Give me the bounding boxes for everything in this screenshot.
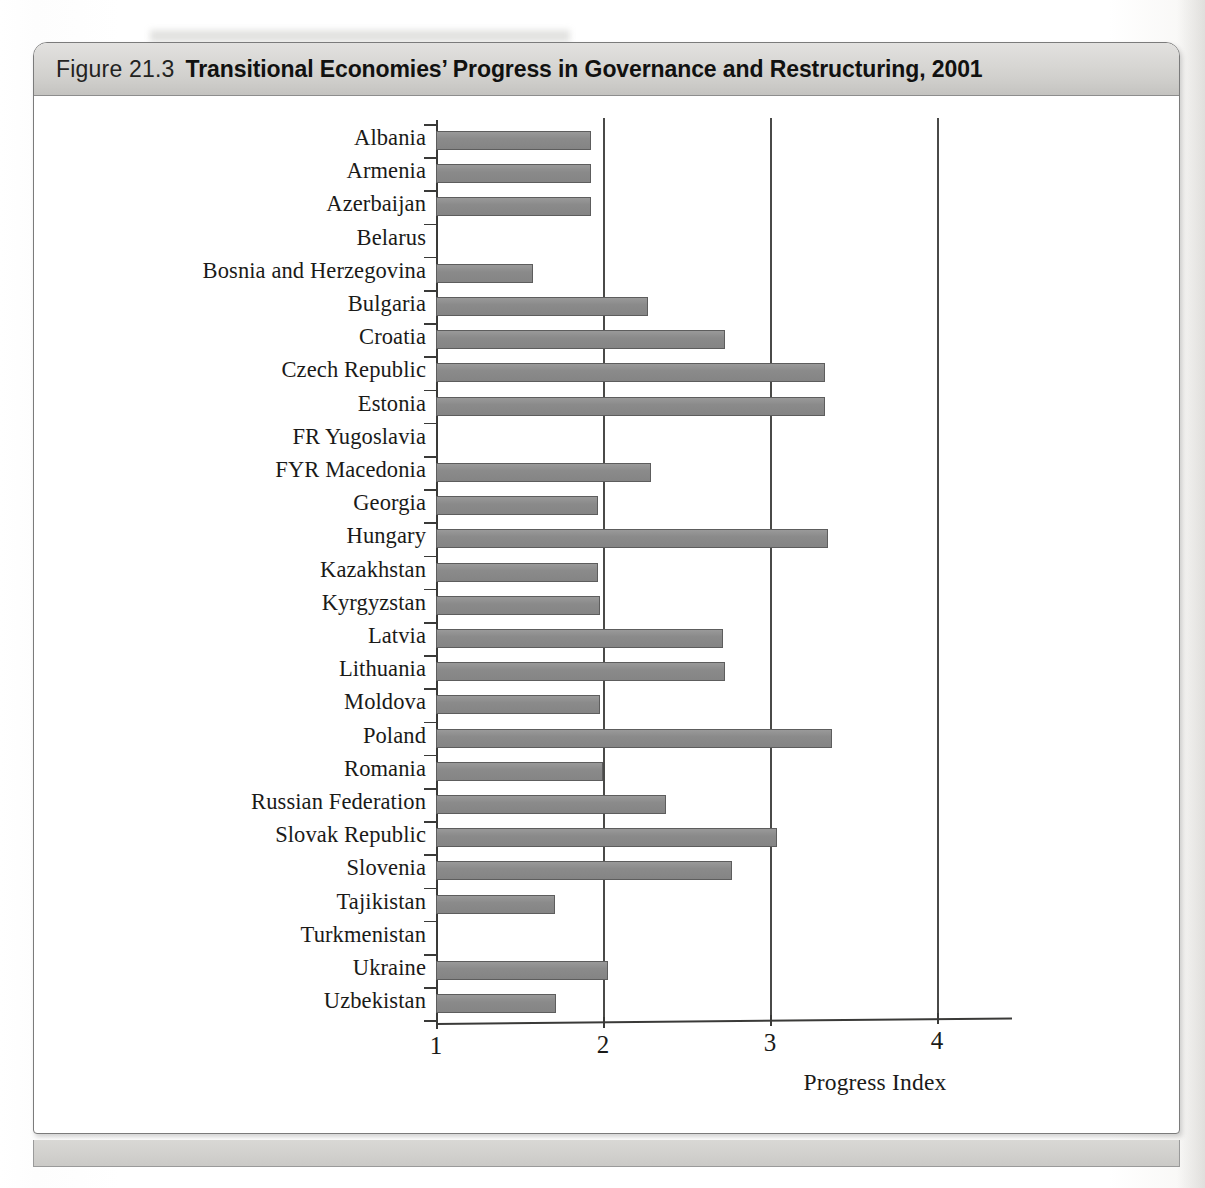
y-axis-tick xyxy=(424,124,437,126)
bar-bosnia-and-herzegovina xyxy=(436,264,533,283)
bar-czech-republic xyxy=(436,363,825,382)
figure-footer-band xyxy=(33,1140,1180,1167)
category-label: Belarus xyxy=(33,225,426,251)
y-axis-tick xyxy=(424,157,437,159)
figure-title: Transitional Economies’ Progress in Gove… xyxy=(186,56,983,83)
y-axis-tick xyxy=(424,655,437,657)
y-axis-tick xyxy=(424,854,437,856)
category-label: Estonia xyxy=(33,391,426,417)
category-label: Czech Republic xyxy=(33,357,426,383)
bar-fill xyxy=(437,630,722,647)
y-axis-tick xyxy=(424,290,437,292)
page-edge-shadow xyxy=(1177,0,1205,1188)
category-label: Ukraine xyxy=(33,955,426,981)
category-label: Slovenia xyxy=(33,855,426,881)
bar-fill xyxy=(437,564,597,581)
y-axis-tick xyxy=(424,522,437,524)
bar-fill xyxy=(437,862,731,879)
y-axis-tick xyxy=(424,788,437,790)
bar-fill xyxy=(437,464,650,481)
x-axis-tick-label: 2 xyxy=(583,1031,623,1059)
bar-poland xyxy=(436,729,832,748)
bar-hungary xyxy=(436,529,828,548)
y-axis-tick xyxy=(424,688,437,690)
bar-ukraine xyxy=(436,961,608,980)
bar-fill xyxy=(437,298,647,315)
category-label: Armenia xyxy=(33,158,426,184)
plot-area: AlbaniaArmeniaAzerbaijanBelarusBosnia an… xyxy=(34,96,1179,1133)
bar-slovak-republic xyxy=(436,828,777,847)
bar-fill xyxy=(437,132,590,149)
bar-fill xyxy=(437,597,599,614)
bar-latvia xyxy=(436,629,723,648)
category-label: Moldova xyxy=(33,689,426,715)
category-label: FYR Macedonia xyxy=(33,457,426,483)
x-axis-tick-1 xyxy=(436,1018,438,1029)
bar-fill xyxy=(437,962,607,979)
category-label: Tajikistan xyxy=(33,889,426,915)
bar-fill xyxy=(437,696,599,713)
bar-albania xyxy=(436,131,591,150)
y-axis-tick xyxy=(424,722,437,724)
y-axis-tick xyxy=(424,589,437,591)
y-axis-tick xyxy=(424,390,437,392)
category-label: Uzbekistan xyxy=(33,988,426,1014)
bar-fill xyxy=(437,398,824,415)
bar-fill xyxy=(437,663,724,680)
bar-georgia xyxy=(436,496,598,515)
y-axis-tick xyxy=(424,257,437,259)
bar-fill xyxy=(437,796,665,813)
bar-fyr-macedonia xyxy=(436,463,651,482)
bar-armenia xyxy=(436,164,591,183)
bar-fill xyxy=(437,265,532,282)
category-label: Turkmenistan xyxy=(33,922,426,948)
figure-card: Figure 21.3 Transitional Economies’ Prog… xyxy=(33,42,1180,1134)
bar-fill xyxy=(437,331,724,348)
category-label: Poland xyxy=(33,723,426,749)
bar-moldova xyxy=(436,695,600,714)
bar-uzbekistan xyxy=(436,994,556,1013)
bar-fill xyxy=(437,497,597,514)
figure-title-bar: Figure 21.3 Transitional Economies’ Prog… xyxy=(34,43,1179,96)
bar-lithuania xyxy=(436,662,725,681)
x-axis-line xyxy=(436,1018,1012,1025)
bar-chart: AlbaniaArmeniaAzerbaijanBelarusBosnia an… xyxy=(34,96,1179,1133)
y-axis-tick xyxy=(424,190,437,192)
x-axis-tick-label: 4 xyxy=(917,1027,957,1055)
bar-tajikistan xyxy=(436,895,555,914)
bar-fill xyxy=(437,763,602,780)
y-axis-tick xyxy=(424,489,437,491)
figure-page: Figure 21.3 Transitional Economies’ Prog… xyxy=(0,0,1205,1188)
bar-fill xyxy=(437,165,590,182)
bar-fill xyxy=(437,530,827,547)
category-label: Kazakhstan xyxy=(33,557,426,583)
y-axis-tick xyxy=(424,921,437,923)
gridline-3 xyxy=(770,118,772,1023)
bar-azerbaijan xyxy=(436,197,591,216)
gridline-4 xyxy=(937,118,939,1023)
y-axis-tick xyxy=(424,556,437,558)
x-axis-tick-4 xyxy=(937,1013,939,1024)
y-axis-tick xyxy=(424,456,437,458)
bar-fill xyxy=(437,730,831,747)
y-axis-tick xyxy=(424,821,437,823)
category-label: Romania xyxy=(33,756,426,782)
y-axis-tick xyxy=(424,888,437,890)
y-axis-tick xyxy=(424,987,437,989)
scan-smudge xyxy=(150,30,570,42)
y-axis-tick xyxy=(424,423,437,425)
bar-slovenia xyxy=(436,861,732,880)
bar-kazakhstan xyxy=(436,563,598,582)
bar-kyrgyzstan xyxy=(436,596,600,615)
category-label: Azerbaijan xyxy=(33,191,426,217)
category-label: Russian Federation xyxy=(33,789,426,815)
figure-number: Figure 21.3 xyxy=(56,56,175,83)
y-axis-tick xyxy=(424,323,437,325)
category-label: FR Yugoslavia xyxy=(33,424,426,450)
category-label: Bulgaria xyxy=(33,291,426,317)
bar-fill xyxy=(437,364,824,381)
bar-russian-federation xyxy=(436,795,666,814)
category-label: Lithuania xyxy=(33,656,426,682)
category-label: Croatia xyxy=(33,324,426,350)
y-axis-tick xyxy=(424,224,437,226)
